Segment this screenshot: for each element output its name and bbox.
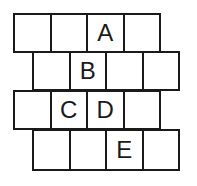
cell [142, 129, 181, 171]
cell [142, 51, 181, 91]
cell [69, 129, 108, 171]
grid-row-4: E [32, 129, 180, 171]
cell-c: C [50, 90, 89, 130]
cell [105, 51, 144, 91]
cell [32, 51, 71, 91]
cell-b: B [69, 51, 108, 91]
grid-row-2: B [32, 51, 180, 91]
cell [123, 13, 162, 53]
grid-row-1: A [13, 13, 161, 53]
cell [123, 90, 162, 130]
cell [50, 13, 89, 53]
cell [13, 90, 52, 130]
grid-row-3: C D [13, 90, 161, 130]
cell [13, 13, 52, 53]
cell [32, 129, 71, 171]
cell-a: A [86, 13, 125, 53]
cell-e: E [105, 129, 144, 171]
cell-d: D [86, 90, 125, 130]
